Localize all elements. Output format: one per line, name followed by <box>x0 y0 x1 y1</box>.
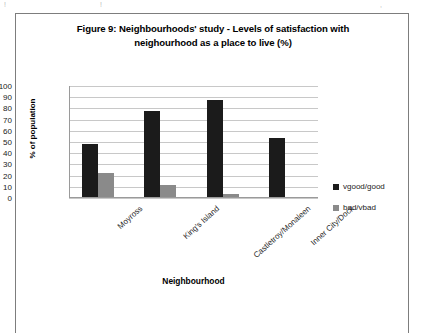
y-axis-tick-label: 20 <box>3 171 12 180</box>
x-axis-label-1: King's Island <box>182 204 222 241</box>
y-axis-tick-label: 80 <box>3 104 12 113</box>
x-axis-category-labels: MoyrossKing's IslandCastletroy/MonaleenI… <box>69 200 318 270</box>
y-axis-tick-label: 10 <box>3 182 12 191</box>
legend-item-0[interactable]: vgood/good <box>333 182 385 191</box>
bar-vgood-good-3 <box>269 138 285 197</box>
bar-series-group <box>69 86 318 198</box>
legend-label: bad/vbad <box>343 203 376 212</box>
y-axis-tick-label: 70 <box>3 115 12 124</box>
y-axis-tick-label: 0 <box>8 194 12 203</box>
y-axis-tick-label: 30 <box>3 160 12 169</box>
x-axis-title: Neighbourhood <box>69 276 318 286</box>
y-axis-tick-label: 50 <box>3 138 12 147</box>
legend-item-1[interactable]: bad/vbad <box>333 203 385 212</box>
bar-bad-vbad-1 <box>160 185 176 197</box>
chart-plot-wrapper: % of population 0102030405060708090100 M… <box>16 14 410 321</box>
y-axis-tick-label: 40 <box>3 149 12 158</box>
x-axis-label-0: Moyross <box>116 204 144 231</box>
legend-swatch-icon <box>333 205 339 211</box>
legend-label: vgood/good <box>343 182 385 191</box>
figure-border-box: Figure 9: Neighbourhoods' study - Levels… <box>15 13 409 333</box>
bar-vgood-good-0 <box>82 144 98 197</box>
y-axis-tick-labels: 0102030405060708090100 <box>0 86 12 198</box>
gridline <box>69 198 318 199</box>
legend-swatch-icon <box>333 184 339 190</box>
bar-bad-vbad-2 <box>223 194 239 197</box>
chart-legend: vgood/goodbad/vbad <box>333 182 385 224</box>
bar-vgood-good-2 <box>207 100 223 197</box>
y-axis-tick-label: 100 <box>0 82 12 91</box>
plot-area <box>69 86 318 198</box>
scan-artifact-top-left: ! ! <box>4 1 419 8</box>
scan-artifact-top-right: , <box>380 1 422 8</box>
bar-bad-vbad-0 <box>98 173 114 197</box>
y-axis-title: % of population <box>28 89 37 169</box>
y-axis-tick-label: 60 <box>3 126 12 135</box>
y-axis-tick-label: 90 <box>3 93 12 102</box>
bar-vgood-good-1 <box>144 111 160 197</box>
x-axis-label-2: Castletroy/Monaleen <box>251 204 312 260</box>
